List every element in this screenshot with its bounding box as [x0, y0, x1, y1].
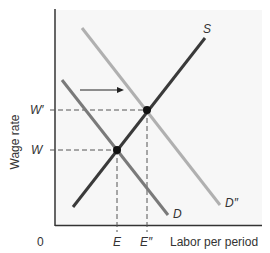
- employment-tick-e-double-prime: E″: [140, 235, 153, 249]
- wage-tick-w: W: [31, 143, 44, 157]
- wage-tick-w-prime: W′: [30, 103, 44, 117]
- x-axis-label: Labor per period: [170, 235, 258, 249]
- equilibrium-point-new: [143, 106, 151, 114]
- supply-label: S: [203, 22, 211, 36]
- demand-label: D: [173, 207, 182, 221]
- labor-market-diagram: S D D″ W′ W 0 E E″ Labor per period Wage…: [0, 0, 270, 253]
- equilibrium-point-initial: [113, 146, 121, 154]
- origin-label: 0: [37, 235, 44, 249]
- y-axis-label: Wage rate: [8, 114, 22, 169]
- demand-new-label: D″: [225, 196, 239, 210]
- plot-area: [56, 10, 262, 225]
- employment-tick-e: E: [113, 235, 122, 249]
